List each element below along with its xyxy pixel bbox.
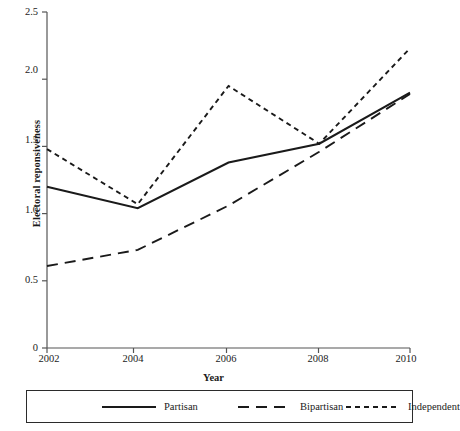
y-tick-label-2-5: 2.5 [25,7,38,18]
x-tick-label-2002: 2002 [27,354,71,365]
legend-label-bipartisan: Bipartisan [300,401,343,412]
x-tick-label-2006: 2006 [204,354,248,365]
y-tick-label-1-0: 1.0 [25,205,38,216]
y-tick-label-0-5: 0.5 [25,275,38,286]
y-tick-label-2-0: 2.0 [25,65,38,76]
legend-swatch-long-dash-icon [237,401,293,413]
legend-swatch-short-dash-icon [345,401,401,413]
x-tick-label-2008: 2008 [296,354,340,365]
line-series-bipartisan [47,94,410,266]
legend-label-independent: Independent [408,401,460,412]
x-axis-tick-labels: 2002 2004 2006 2008 2010 [0,354,427,370]
legend-entry-bipartisan: Bipartisan [237,391,343,422]
y-axis-ticks [42,12,47,348]
legend-entry-partisan: Partisan [101,391,198,422]
x-axis-title: Year [0,372,427,383]
legend-entry-independent: Independent [345,391,460,422]
x-tick-label-2004: 2004 [111,354,155,365]
x-tick-label-2010: 2010 [384,354,428,365]
y-tick-label-1-5: 1.5 [25,135,38,146]
y-tick-label-0: 0 [33,343,38,354]
chart-legend: Partisan Bipartisan Independent [26,390,413,423]
legend-swatch-solid-icon [101,401,157,413]
line-series-independent [47,48,410,204]
line-series-partisan [47,93,410,209]
plot-svg [47,12,410,348]
legend-label-partisan: Partisan [164,401,198,412]
plot-area [47,12,410,348]
